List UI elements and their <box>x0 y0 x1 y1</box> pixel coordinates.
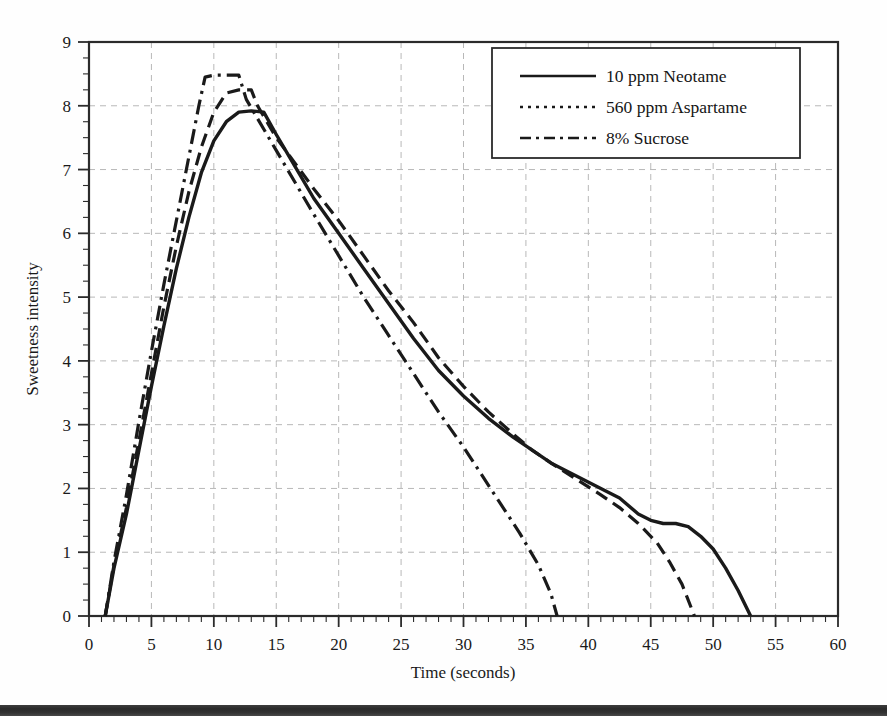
y-tick-label: 6 <box>63 224 72 243</box>
y-tick-label: 5 <box>63 288 72 307</box>
x-tick-label: 30 <box>455 635 472 654</box>
x-tick-label: 5 <box>147 635 156 654</box>
x-tick-label: 45 <box>642 635 659 654</box>
y-tick-label: 0 <box>63 607 72 626</box>
x-tick-label: 10 <box>205 635 222 654</box>
y-tick-label: 7 <box>63 161 72 180</box>
y-axis-title: Sweetness intensity <box>23 262 42 396</box>
y-tick-label: 2 <box>63 479 72 498</box>
y-axis-tick-labels: 0123456789 <box>63 33 72 626</box>
x-tick-label: 15 <box>268 635 285 654</box>
x-axis-ticks <box>89 616 838 627</box>
x-tick-label: 55 <box>767 635 784 654</box>
y-tick-label: 4 <box>63 352 72 371</box>
y-tick-label: 1 <box>63 543 72 562</box>
y-tick-label: 9 <box>63 33 72 52</box>
x-tick-label: 35 <box>517 635 534 654</box>
x-tick-label: 40 <box>580 635 597 654</box>
chart-legend[interactable]: 10 ppm Neotame560 ppm Aspartame8% Sucros… <box>492 48 800 158</box>
x-tick-label: 50 <box>705 635 722 654</box>
x-tick-label: 25 <box>393 635 410 654</box>
x-axis-title: Time (seconds) <box>411 663 516 682</box>
legend-label: 8% Sucrose <box>606 128 689 148</box>
scan-artifact-band <box>0 705 887 716</box>
y-axis-ticks <box>78 42 89 616</box>
y-tick-label: 3 <box>63 416 72 435</box>
y-tick-label: 8 <box>63 97 72 116</box>
figure-container: 051015202530354045505560 0123456789 Time… <box>0 0 887 705</box>
legend-label: 10 ppm Neotame <box>606 66 727 86</box>
legend-label: 560 ppm Aspartame <box>606 97 747 117</box>
x-tick-label: 0 <box>85 635 94 654</box>
x-axis-tick-labels: 051015202530354045505560 <box>85 635 847 654</box>
sweetness-intensity-line-chart: 051015202530354045505560 0123456789 Time… <box>0 0 887 705</box>
x-tick-label: 60 <box>830 635 847 654</box>
x-tick-label: 20 <box>330 635 347 654</box>
